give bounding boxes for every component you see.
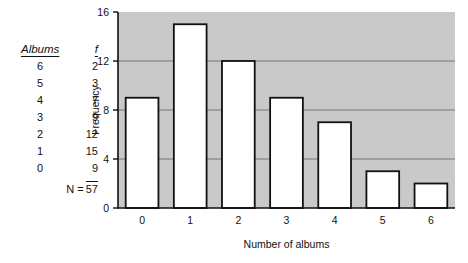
table-row: 4 7 bbox=[14, 92, 102, 109]
cell-album: 3 bbox=[14, 109, 66, 126]
table-row: 3 9 bbox=[14, 109, 102, 126]
bar-2 bbox=[222, 61, 255, 208]
x-tick-label: 0 bbox=[139, 214, 145, 226]
bar-6 bbox=[415, 184, 448, 209]
table-body: 6 2 5 3 4 7 3 9 2 12 1 15 bbox=[14, 58, 102, 177]
cell-album: 2 bbox=[14, 126, 66, 143]
cell-album: 0 bbox=[14, 160, 66, 177]
x-tick-label: 6 bbox=[428, 214, 434, 226]
table-row: 6 2 bbox=[14, 58, 102, 75]
cell-album: 1 bbox=[14, 143, 66, 160]
cell-album: 6 bbox=[14, 58, 66, 75]
y-tick-label: 4 bbox=[103, 153, 109, 165]
table-row: 1 15 bbox=[14, 143, 102, 160]
total-label: N = bbox=[66, 183, 83, 195]
table-row: 5 3 bbox=[14, 75, 102, 92]
bar-3 bbox=[270, 98, 303, 208]
frequency-table: Albums f 6 2 5 3 4 7 3 9 2 12 bbox=[14, 44, 102, 195]
bar-4 bbox=[318, 122, 351, 208]
y-tick-label: 16 bbox=[97, 6, 109, 18]
x-tick-label: 1 bbox=[187, 214, 193, 226]
table-header-row: Albums f bbox=[14, 44, 102, 58]
x-tick-label: 2 bbox=[235, 214, 241, 226]
y-axis-title: Frequency bbox=[92, 84, 101, 134]
x-tick-label: 4 bbox=[332, 214, 338, 226]
x-tick-label: 5 bbox=[380, 214, 386, 226]
bar-1 bbox=[174, 24, 207, 208]
bar-0 bbox=[126, 98, 159, 208]
histogram-chart: 01234560481216FrequencyNumber of albums bbox=[92, 4, 464, 260]
y-tick-label: 0 bbox=[103, 202, 109, 214]
x-tick-label: 3 bbox=[284, 214, 290, 226]
chart-canvas: 01234560481216FrequencyNumber of albums bbox=[92, 4, 464, 260]
table-row: 0 9 bbox=[14, 160, 102, 177]
bar-5 bbox=[366, 171, 399, 208]
y-tick-label: 12 bbox=[97, 55, 109, 67]
column-header-albums: Albums bbox=[14, 44, 66, 58]
y-tick-label: 8 bbox=[103, 104, 109, 116]
table-row: 2 12 bbox=[14, 126, 102, 143]
cell-album: 5 bbox=[14, 75, 66, 92]
x-axis-title: Number of albums bbox=[244, 238, 330, 250]
cell-album: 4 bbox=[14, 92, 66, 109]
table-total-row: N =57 bbox=[14, 181, 102, 195]
frequency-table-grid: Albums f 6 2 5 3 4 7 3 9 2 12 bbox=[14, 44, 102, 177]
